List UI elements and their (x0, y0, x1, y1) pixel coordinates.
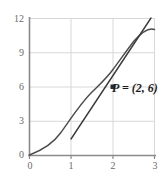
tangent-line-chart: 12 9 6 3 0 0 1 2 3 P = (2, 6) (0, 0, 166, 178)
point-label-P: P = (2, 6) (112, 82, 158, 94)
y-tick-label-9: 9 (8, 48, 24, 58)
x-tick-label-1: 1 (64, 161, 78, 171)
y-tick-label-3: 3 (8, 116, 24, 126)
y-tick-label-12: 12 (8, 14, 24, 24)
x-tick-label-0: 0 (23, 161, 37, 171)
y-tick-label-0: 0 (8, 150, 24, 160)
x-tick-label-3: 3 (148, 161, 162, 171)
x-tick-label-2: 2 (106, 161, 120, 171)
y-tick-label-6: 6 (8, 82, 24, 92)
